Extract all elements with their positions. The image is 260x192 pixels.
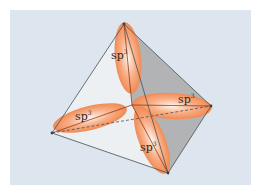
tetrahedron-diagram: sp3 sp3 sp3 sp3 (0, 0, 260, 192)
